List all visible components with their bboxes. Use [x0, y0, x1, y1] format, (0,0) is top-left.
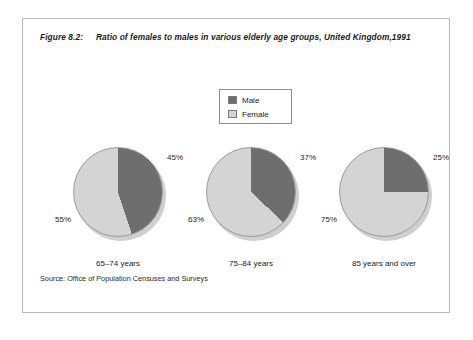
- pie-category-label: 75–84 years: [186, 259, 316, 268]
- pie-label-female: 63%: [188, 215, 204, 224]
- figure-title-text: Ratio of females to males in various eld…: [96, 32, 411, 42]
- pie-label-male: 25%: [433, 153, 449, 162]
- figure-title: Figure 8.2:Ratio of females to males in …: [40, 32, 440, 42]
- figure-number: Figure 8.2:: [40, 32, 96, 42]
- legend-item-male[interactable]: Male: [228, 94, 259, 106]
- pie-disc[interactable]: [206, 147, 296, 237]
- pie-disc[interactable]: [339, 147, 429, 237]
- legend-swatch-male-icon: [228, 96, 237, 104]
- legend-label-female: Female: [242, 110, 269, 119]
- pie-category-label: 65–74 years: [53, 259, 183, 268]
- legend-item-female[interactable]: Female: [228, 108, 269, 120]
- source-note: Source: Office of Population Censuses an…: [40, 274, 208, 283]
- legend-swatch-female-icon: [228, 110, 237, 118]
- pie-category-label: 85 years and over: [319, 259, 449, 268]
- pie-label-male: 45%: [167, 153, 183, 162]
- figure-frame: Figure 8.2:Ratio of females to males in …: [22, 18, 450, 313]
- pie-disc[interactable]: [73, 147, 163, 237]
- pie-label-female: 55%: [55, 215, 71, 224]
- chart-legend: Male Female: [219, 89, 292, 124]
- pie-label-male: 37%: [300, 153, 316, 162]
- pie-label-female: 75%: [321, 215, 337, 224]
- legend-label-male: Male: [242, 96, 259, 105]
